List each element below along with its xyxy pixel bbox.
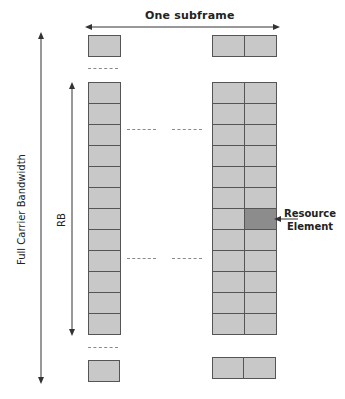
bottom-right-block-1	[212, 357, 244, 379]
bottom-left-block	[88, 360, 120, 382]
rb-cell	[244, 313, 277, 335]
ellipsis-dash-mid-2b	[172, 258, 202, 259]
rb-cell	[212, 124, 245, 146]
bottom-right-block-2	[243, 357, 276, 379]
ellipsis-dash-mid-2a	[127, 258, 156, 259]
rb-arrow-icon	[67, 82, 77, 336]
rb-cell	[212, 271, 245, 293]
rb-cell	[244, 292, 277, 314]
rb-cell	[244, 250, 277, 272]
rb-cell	[88, 292, 121, 314]
resource-element-cell	[244, 208, 277, 230]
rb-cell	[244, 187, 277, 209]
rb-cell	[88, 103, 121, 125]
full-bandwidth-arrow-icon	[36, 32, 46, 384]
rb-cell	[212, 292, 245, 314]
subframe-arrow-icon	[85, 22, 280, 32]
top-right-block-1	[212, 35, 245, 57]
rb-cell	[244, 82, 277, 104]
rb-cell	[244, 103, 277, 125]
rb-cell	[244, 145, 277, 167]
rb-cell	[88, 187, 121, 209]
rb-cell	[88, 229, 121, 251]
rb-cell	[212, 313, 245, 335]
rb-cell	[212, 103, 245, 125]
rb-cell	[88, 313, 121, 335]
rb-cell	[244, 229, 277, 251]
rb-cell	[212, 208, 245, 230]
rb-cell	[88, 145, 121, 167]
top-right-block-2	[244, 35, 277, 57]
rb-cell	[88, 271, 121, 293]
ellipsis-dash-mid-1a	[127, 129, 156, 130]
rb-cell	[244, 166, 277, 188]
rb-cell	[88, 208, 121, 230]
rb-cell	[212, 82, 245, 104]
ellipsis-dash-bottom	[88, 347, 118, 348]
rb-cell	[88, 124, 121, 146]
ellipsis-dash-top	[88, 68, 118, 69]
rb-cell	[88, 82, 121, 104]
rb-cell	[244, 124, 277, 146]
rb-cell	[212, 229, 245, 251]
rb-cell	[244, 271, 277, 293]
resource-element-line1: Resource	[280, 207, 340, 220]
top-left-block	[88, 35, 121, 57]
rb-cell	[212, 187, 245, 209]
rb-cell	[212, 166, 245, 188]
rb-label: RB	[56, 213, 67, 227]
rb-cell	[212, 250, 245, 272]
subframe-title: One subframe	[145, 9, 235, 22]
resource-element-line2: Element	[280, 220, 340, 233]
resource-element-label: Resource Element	[280, 207, 340, 233]
rb-cell	[88, 250, 121, 272]
rb-cell	[88, 166, 121, 188]
ellipsis-dash-mid-1b	[172, 129, 202, 130]
full-bandwidth-label: Full Carrier Bandwidth	[16, 154, 27, 265]
rb-cell	[212, 145, 245, 167]
